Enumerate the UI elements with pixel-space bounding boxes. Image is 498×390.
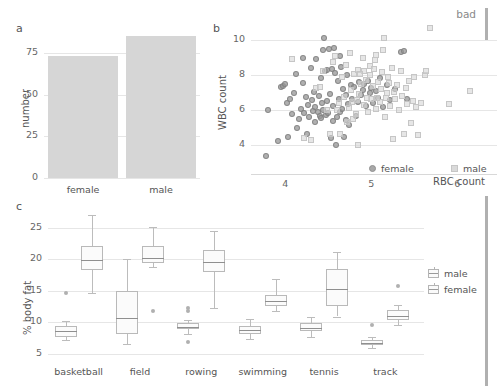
scatter-point-female — [294, 125, 300, 131]
median-line — [203, 262, 225, 263]
whisker-cap — [123, 259, 131, 260]
y-tick-label: 10 — [8, 315, 42, 326]
whisker-cap — [307, 337, 315, 338]
outlier-point — [151, 309, 155, 313]
scatter-point-male — [389, 65, 395, 71]
scatter-point-male — [327, 131, 333, 137]
scatter-point-male — [427, 25, 433, 31]
legend-item-female[interactable]: female — [428, 283, 477, 295]
scatter-point-male — [361, 102, 367, 108]
scatter-point-female — [265, 107, 271, 113]
scatter-point-male — [379, 69, 385, 75]
legend-item-male[interactable]: male — [451, 162, 487, 174]
whisker-cap — [394, 305, 402, 306]
category-label-track: track — [340, 366, 430, 377]
outlier-point — [370, 323, 374, 327]
scatter-point-male — [391, 89, 397, 95]
scatter-point-male — [375, 79, 381, 85]
median-line — [142, 258, 164, 259]
x-tick-label: 6 — [437, 178, 477, 189]
scatter-point-male — [374, 95, 380, 101]
outlier-point — [186, 340, 190, 344]
median-line — [239, 330, 261, 331]
median-line — [326, 289, 348, 290]
median-line — [116, 318, 138, 319]
scatter-point-female — [332, 70, 338, 76]
scatter-point-male — [446, 101, 452, 107]
y-tick-label: 5 — [8, 347, 42, 358]
boxplot-marker-icon — [428, 285, 439, 294]
y-tick-label: 25 — [4, 129, 38, 140]
scatter-point-male — [398, 68, 404, 74]
scatter-point-male — [394, 82, 400, 88]
whisker-cap — [62, 321, 70, 322]
scatter-point-female — [300, 80, 306, 86]
scatter-point-male — [320, 68, 326, 74]
legend-item-male[interactable]: male — [428, 267, 468, 279]
scatter-point-male — [382, 114, 388, 120]
whisker-cap — [62, 340, 70, 341]
whisker-cap — [272, 311, 280, 312]
scatter-point-female — [296, 116, 302, 122]
scatter-point-male — [380, 47, 386, 53]
legend-label: male — [463, 163, 487, 174]
scatter-point-male — [337, 131, 343, 137]
scatter-point-male — [308, 137, 314, 143]
whisker-cap — [149, 267, 157, 268]
scatter-point-male — [330, 59, 336, 65]
whisker-cap — [184, 334, 192, 335]
whisker-cap — [123, 344, 131, 345]
median-line — [300, 328, 322, 329]
whisker-cap — [333, 317, 341, 318]
boxplot-female-tennis — [326, 269, 348, 306]
x-axis-line — [251, 174, 497, 175]
y-tick-label: 15 — [8, 284, 42, 295]
scatter-point-female — [344, 72, 350, 78]
scatter-point-male — [336, 100, 342, 106]
scatter-point-female — [287, 96, 293, 102]
scatter-point-female — [263, 153, 269, 159]
x-tick-label: 4 — [265, 178, 305, 189]
scatter-point-male — [357, 71, 363, 77]
scatter-point-male — [415, 132, 421, 138]
legend-item-female[interactable]: female — [369, 162, 414, 174]
scatter-point-female — [318, 75, 324, 81]
scatter-point-male — [355, 142, 361, 148]
scatter-point-female — [340, 86, 346, 92]
y-tick-label: 8 — [213, 68, 245, 79]
scatter-point-male — [378, 86, 384, 92]
scatter-point-male — [301, 135, 307, 141]
scatter-point-male — [396, 107, 402, 113]
outlier-point — [396, 284, 400, 288]
scatter-point-female — [309, 97, 315, 103]
panel-a-letter: a — [16, 22, 23, 35]
boxplot-female-field — [142, 246, 164, 263]
scatter-point-male — [364, 95, 370, 101]
legend-label: male — [444, 268, 468, 279]
scatter-point-male — [324, 107, 330, 113]
scatter-point-female — [334, 114, 340, 120]
panel-c-plot-area — [48, 215, 416, 360]
scatter-point-male — [390, 136, 396, 142]
scatter-point-female — [282, 81, 288, 87]
whisker-cap — [368, 348, 376, 349]
scatter-point-female — [316, 93, 322, 99]
whisker-cap — [184, 320, 192, 321]
whisker-cap — [272, 279, 280, 280]
scatter-point-male — [339, 74, 345, 80]
scatter-point-male — [317, 84, 323, 90]
scatter-point-male — [392, 96, 398, 102]
scatter-point-male — [371, 66, 377, 72]
median-line — [361, 343, 383, 344]
scatter-point-male — [410, 98, 416, 104]
panel-a: a number 0255075 femalemale — [0, 0, 205, 195]
scatter-point-female — [308, 65, 314, 71]
whisker-cap — [333, 252, 341, 253]
y-tick-label: 50 — [4, 88, 38, 99]
scatter-point-female — [285, 134, 291, 140]
legend-label: female — [381, 163, 414, 174]
scatter-point-female — [306, 114, 312, 120]
boxplot-male-field — [116, 291, 138, 335]
scatter-point-male — [408, 120, 414, 126]
scatter-point-male — [423, 68, 429, 74]
